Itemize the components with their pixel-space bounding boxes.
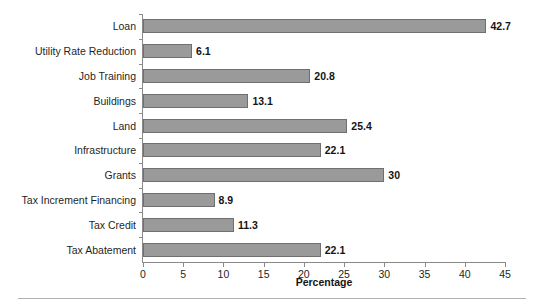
bar-value-label: 42.7 (490, 21, 510, 32)
x-axis-tick (304, 263, 305, 267)
x-axis-tick (465, 263, 466, 267)
bar-value-label: 8.9 (219, 195, 234, 206)
plot-area: Loan42.7Utility Rate Reduction6.1Job Tra… (143, 14, 505, 262)
y-axis-tick (139, 212, 143, 213)
y-axis-tick (139, 39, 143, 40)
bar-value-label: 13.1 (252, 96, 272, 107)
bar: 30 (143, 168, 384, 182)
bar-value-label: 30 (388, 170, 400, 181)
bar-row: Utility Rate Reduction6.1 (143, 39, 505, 64)
x-axis-line (143, 262, 506, 263)
category-label: Buildings (93, 96, 136, 107)
x-axis-tick (425, 263, 426, 267)
bar-row: Loan42.7 (143, 14, 505, 39)
bar: 42.7 (143, 19, 486, 33)
bar: 25.4 (143, 119, 347, 133)
x-axis-tick (505, 263, 506, 267)
bar-row: Grants30 (143, 163, 505, 188)
y-axis-tick (139, 138, 143, 139)
bar-row: Tax Increment Financing8.9 (143, 188, 505, 213)
bar: 22.1 (143, 243, 321, 257)
category-label: Job Training (79, 71, 136, 82)
x-axis-tick (223, 263, 224, 267)
bar-value-label: 25.4 (351, 120, 371, 131)
x-axis-tick (143, 263, 144, 267)
category-label: Land (113, 120, 136, 131)
y-axis-tick (139, 14, 143, 15)
y-axis-tick (139, 113, 143, 114)
bar: 20.8 (143, 69, 310, 83)
bar-value-label: 20.8 (314, 71, 334, 82)
category-label: Grants (104, 170, 136, 181)
x-axis-tick (183, 263, 184, 267)
x-axis-label: Percentage (143, 276, 505, 288)
y-axis-tick (139, 163, 143, 164)
bar-row: Land25.4 (143, 113, 505, 138)
bar-value-label: 22.1 (325, 145, 345, 156)
category-label: Loan (113, 21, 136, 32)
category-label: Tax Credit (89, 220, 136, 231)
x-axis-tick (264, 263, 265, 267)
footer-divider (18, 298, 526, 299)
bar: 6.1 (143, 44, 192, 58)
y-axis-tick (139, 237, 143, 238)
bar-row: Infrastructure22.1 (143, 138, 505, 163)
y-axis-tick (139, 188, 143, 189)
bar-value-label: 6.1 (196, 46, 211, 57)
bar-row: Tax Credit11.3 (143, 212, 505, 237)
bar: 11.3 (143, 218, 234, 232)
bar-chart: Loan42.7Utility Rate Reduction6.1Job Tra… (0, 0, 534, 308)
category-label: Tax Increment Financing (22, 195, 136, 206)
bar: 22.1 (143, 143, 321, 157)
bar-row: Tax Abatement22.1 (143, 237, 505, 262)
y-axis-tick (139, 64, 143, 65)
x-axis-tick (344, 263, 345, 267)
bar: 13.1 (143, 94, 248, 108)
y-axis-tick (139, 88, 143, 89)
category-label: Utility Rate Reduction (35, 46, 136, 57)
category-label: Infrastructure (74, 145, 136, 156)
bar-value-label: 22.1 (325, 244, 345, 255)
bar-value-label: 11.3 (238, 220, 258, 231)
bar: 8.9 (143, 193, 215, 207)
bar-row: Job Training20.8 (143, 64, 505, 89)
category-label: Tax Abatement (67, 244, 136, 255)
x-axis-tick (384, 263, 385, 267)
bar-row: Buildings13.1 (143, 88, 505, 113)
